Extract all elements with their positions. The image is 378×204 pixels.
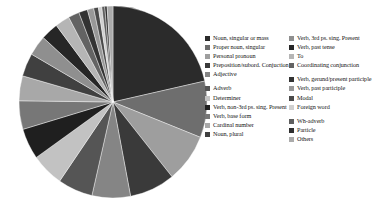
legend-item[interactable]: Wh-adverb bbox=[289, 117, 378, 126]
legend-item[interactable]: Adjective bbox=[205, 70, 289, 79]
legend-swatch-icon bbox=[289, 54, 294, 59]
legend-item[interactable]: Coordinating conjunction bbox=[289, 61, 378, 70]
legend-item[interactable]: Cardinal number bbox=[205, 121, 289, 130]
legend-item-label: Verb, 3rd ps. sing. Present bbox=[297, 34, 360, 43]
legend-swatch-icon bbox=[205, 36, 210, 41]
legend-item-label: Determiner bbox=[213, 94, 241, 103]
legend-item-label: Verb, gerund/present participle bbox=[297, 75, 372, 84]
legend-item-label: Verb, base form bbox=[213, 112, 251, 121]
legend-swatch-icon bbox=[205, 45, 210, 50]
legend-swatch-icon bbox=[289, 128, 294, 133]
pie-chart-svg bbox=[18, 5, 208, 199]
legend-item[interactable]: Verb, gerund/present participle bbox=[289, 75, 378, 84]
legend-swatch-icon bbox=[205, 96, 210, 101]
legend-item-label: Cardinal number bbox=[213, 121, 254, 130]
pie-chart-figure: Noun, singular or massProper noun, singu… bbox=[0, 0, 378, 204]
legend-item-label: Adjective bbox=[213, 70, 237, 79]
legend-item-label: Preposition/subord. Conjuction bbox=[213, 61, 289, 70]
legend-swatch-icon bbox=[205, 63, 210, 68]
legend-item[interactable]: To bbox=[289, 52, 378, 61]
legend-swatch-icon bbox=[289, 105, 294, 110]
legend-item[interactable]: Verb, base form bbox=[205, 112, 289, 121]
legend-column-right: Verb, 3rd ps. sing. PresentVerb, past te… bbox=[289, 34, 378, 144]
legend-item[interactable]: Verb, 3rd ps. sing. Present bbox=[289, 34, 378, 43]
legend-item-label: Particle bbox=[297, 126, 316, 135]
legend-item[interactable]: Others bbox=[289, 135, 378, 144]
legend-item[interactable]: Particle bbox=[289, 126, 378, 135]
legend-item[interactable]: Determiner bbox=[205, 94, 289, 103]
legend-item[interactable]: Foreign word bbox=[289, 103, 378, 112]
legend-swatch-icon bbox=[289, 96, 294, 101]
legend-swatch-icon bbox=[289, 119, 294, 124]
legend-item-label: Verb, non-3rd ps. sing. Present bbox=[213, 103, 287, 112]
legend-item-label: Verb, past participle bbox=[297, 84, 345, 93]
legend-item-label: Personal pronoun bbox=[213, 52, 255, 61]
legend-item[interactable]: Preposition/subord. Conjuction bbox=[205, 61, 289, 70]
legend-swatch-icon bbox=[205, 54, 210, 59]
pie-chart-plot-area bbox=[18, 5, 208, 199]
legend-item-label: Adverb bbox=[213, 84, 231, 93]
legend-swatch-icon bbox=[205, 105, 210, 110]
legend-item-label: Proper noun, singular bbox=[213, 43, 265, 52]
legend-column-left: Noun, singular or massProper noun, singu… bbox=[205, 34, 289, 139]
legend-swatch-icon bbox=[205, 72, 210, 77]
legend-item-label: Modal bbox=[297, 94, 313, 103]
legend-swatch-icon bbox=[205, 86, 210, 91]
legend-item[interactable]: Noun, singular or mass bbox=[205, 34, 289, 43]
legend-item[interactable]: Personal pronoun bbox=[205, 52, 289, 61]
legend-item-label: Noun, plural bbox=[213, 130, 243, 139]
chart-legend: Noun, singular or massProper noun, singu… bbox=[205, 34, 378, 174]
legend-item-label: Verb, past tense bbox=[297, 43, 335, 52]
legend-swatch-icon bbox=[289, 137, 294, 142]
legend-item-label: To bbox=[297, 52, 303, 61]
legend-item-label: Coordinating conjunction bbox=[297, 61, 359, 70]
legend-swatch-icon bbox=[289, 45, 294, 50]
legend-swatch-icon bbox=[289, 36, 294, 41]
legend-item-label: Others bbox=[297, 135, 313, 144]
legend-item[interactable]: Adverb bbox=[205, 84, 289, 93]
legend-item-label: Foreign word bbox=[297, 103, 330, 112]
legend-swatch-icon bbox=[205, 132, 210, 137]
legend-swatch-icon bbox=[289, 63, 294, 68]
pie-slice-group bbox=[19, 6, 207, 198]
legend-swatch-icon bbox=[205, 114, 210, 119]
legend-item[interactable]: Proper noun, singular bbox=[205, 43, 289, 52]
legend-item[interactable]: Verb, past participle bbox=[289, 84, 378, 93]
legend-swatch-icon bbox=[289, 86, 294, 91]
legend-item[interactable]: Modal bbox=[289, 94, 378, 103]
legend-item-label: Wh-adverb bbox=[297, 117, 324, 126]
legend-item-label: Noun, singular or mass bbox=[213, 34, 269, 43]
legend-item[interactable]: Verb, past tense bbox=[289, 43, 378, 52]
legend-item[interactable]: Verb, non-3rd ps. sing. Present bbox=[205, 103, 289, 112]
legend-swatch-icon bbox=[205, 123, 210, 128]
legend-swatch-icon bbox=[289, 77, 294, 82]
legend-item[interactable]: Noun, plural bbox=[205, 130, 289, 139]
